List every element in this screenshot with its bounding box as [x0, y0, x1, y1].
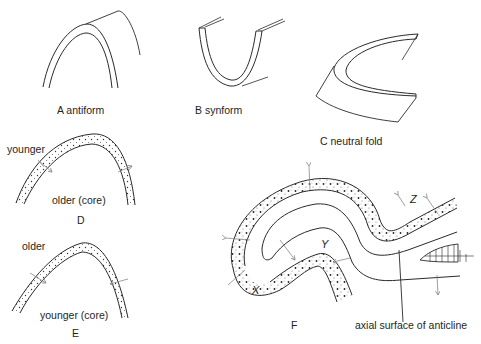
caption-d: D — [77, 214, 85, 226]
caption-f: F — [291, 319, 297, 331]
panel-e-syncline-overturned — [12, 243, 128, 318]
panel-f-complex-fold — [226, 166, 474, 322]
caption-e: E — [72, 327, 79, 339]
label-e-older: older — [22, 240, 45, 252]
panel-b-synform — [199, 17, 285, 86]
panel-a-antiform — [43, 11, 140, 88]
point-x: X — [252, 284, 259, 296]
point-z: Z — [410, 193, 417, 205]
panel-c-neutral-fold — [316, 34, 418, 122]
axial-surface-annotation: axial surface of anticline — [355, 319, 467, 331]
label-d-younger: younger — [7, 143, 45, 155]
caption-a: A antiform — [57, 104, 104, 116]
caption-b: B synform — [195, 104, 242, 116]
label-d-older-core: older (core) — [52, 194, 106, 206]
point-y: Y — [321, 238, 328, 250]
fold-diagram — [0, 0, 481, 344]
caption-c: C neutral fold — [320, 135, 382, 147]
label-e-younger-core: younger (core) — [40, 309, 108, 321]
